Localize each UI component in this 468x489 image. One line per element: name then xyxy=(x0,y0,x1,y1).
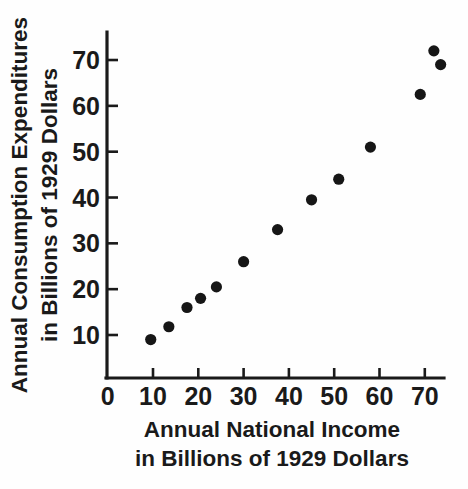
y-axis-title: Annual Consumption Expenditures in Billi… xyxy=(7,17,62,393)
data-point xyxy=(415,89,426,100)
x-tick-label-60: 60 xyxy=(366,382,394,410)
data-point xyxy=(163,321,174,332)
data-point xyxy=(428,45,439,56)
x-tick-label-50: 50 xyxy=(320,382,348,410)
y-tick-label-40: 40 xyxy=(72,184,100,212)
x-tick-label-70: 70 xyxy=(411,382,439,410)
data-point xyxy=(195,293,206,304)
scatter-plot-figure: 010203040506070 10203040506070 Annual Na… xyxy=(0,0,468,489)
chart-canvas: 010203040506070 10203040506070 Annual Na… xyxy=(0,0,468,489)
y-tick-label-10: 10 xyxy=(72,321,100,349)
y-axis-tick-labels: 10203040506070 xyxy=(72,46,100,349)
data-point xyxy=(435,59,446,70)
data-point xyxy=(272,224,283,235)
data-point xyxy=(181,302,192,313)
x-axis-title-line-2: in Billions of 1929 Dollars xyxy=(135,446,409,471)
y-tick-label-70: 70 xyxy=(72,46,100,74)
data-point xyxy=(211,281,222,292)
x-tick-label-40: 40 xyxy=(275,382,303,410)
y-tick-label-50: 50 xyxy=(72,138,100,166)
y-tick-label-30: 30 xyxy=(72,229,100,257)
y-axis-title-line-1: Annual Consumption Expenditures xyxy=(7,17,32,393)
data-point xyxy=(365,141,376,152)
x-tick-label-30: 30 xyxy=(230,382,258,410)
data-point xyxy=(238,256,249,267)
x-axis-title-line-1: Annual National Income xyxy=(144,417,400,442)
y-axis-title-line-2: in Billions of 1929 Dollars xyxy=(37,68,62,342)
y-axis-ticks xyxy=(107,60,118,335)
axes-group xyxy=(106,32,444,378)
y-tick-label-60: 60 xyxy=(72,92,100,120)
data-point xyxy=(333,174,344,185)
x-axis-title: Annual National Income in Billions of 19… xyxy=(135,417,409,471)
x-tick-label-0: 0 xyxy=(101,382,115,410)
x-axis-tick-labels: 010203040506070 xyxy=(101,382,439,410)
x-tick-label-20: 20 xyxy=(184,382,212,410)
data-points-group xyxy=(145,45,446,345)
x-tick-label-10: 10 xyxy=(139,382,167,410)
data-point xyxy=(306,194,317,205)
data-point xyxy=(145,334,156,345)
y-tick-label-20: 20 xyxy=(72,275,100,303)
